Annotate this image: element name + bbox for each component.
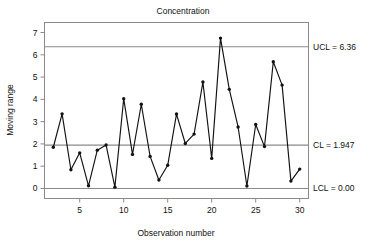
x-tick-label: 15 xyxy=(163,205,173,215)
data-point xyxy=(175,112,178,115)
data-point xyxy=(272,60,275,63)
y-tick-label: 0 xyxy=(33,183,38,193)
chart-canvas: Concentration Moving range 01234567 Obse… xyxy=(0,0,371,242)
y-axis-title: Moving range xyxy=(5,84,15,136)
x-tick-label: 10 xyxy=(119,205,129,215)
data-point xyxy=(104,143,107,146)
x-axis: Observation number 51015202530 xyxy=(77,199,304,239)
data-point xyxy=(219,36,222,39)
y-tick-group: 01234567 xyxy=(33,28,45,194)
y-tick-label: 7 xyxy=(33,28,38,38)
y-axis: Moving range 01234567 xyxy=(5,28,45,194)
control-chart: Concentration Moving range 01234567 Obse… xyxy=(0,0,371,242)
data-point xyxy=(263,145,266,148)
data-point xyxy=(245,184,248,187)
ucl-label: UCL = 6.36 xyxy=(313,42,356,52)
limit-labels: UCL = 6.36 CL = 1.947 LCL = 0.00 xyxy=(313,42,356,194)
data-point xyxy=(201,80,204,83)
x-tick-label: 20 xyxy=(207,205,217,215)
x-axis-title: Observation number xyxy=(137,228,214,238)
data-point xyxy=(157,178,160,181)
moving-range-points xyxy=(52,36,302,188)
y-tick-label: 5 xyxy=(33,72,38,82)
chart-title: Concentration xyxy=(157,6,210,16)
data-point xyxy=(148,155,151,158)
x-tick-label: 25 xyxy=(251,205,261,215)
y-tick-label: 2 xyxy=(33,139,38,149)
data-point xyxy=(280,83,283,86)
y-tick-label: 1 xyxy=(33,161,38,171)
data-point xyxy=(60,112,63,115)
data-point xyxy=(78,151,81,154)
data-point xyxy=(192,132,195,135)
x-tick-group: 51015202530 xyxy=(77,199,304,215)
y-tick-label: 3 xyxy=(33,117,38,127)
y-tick-label: 4 xyxy=(33,94,38,104)
data-point xyxy=(298,167,301,170)
cl-label: CL = 1.947 xyxy=(313,140,355,150)
data-point xyxy=(289,179,292,182)
data-point xyxy=(113,185,116,188)
lcl-label: LCL = 0.00 xyxy=(313,183,355,193)
data-point xyxy=(140,103,143,106)
data-point xyxy=(69,168,72,171)
data-point xyxy=(122,97,125,100)
data-point xyxy=(166,164,169,167)
plot-frame xyxy=(45,23,309,199)
data-point xyxy=(236,125,239,128)
data-point xyxy=(228,88,231,91)
x-tick-label: 30 xyxy=(295,205,305,215)
data-point xyxy=(184,142,187,145)
data-point xyxy=(87,184,90,187)
y-tick-label: 6 xyxy=(33,50,38,60)
data-point xyxy=(96,148,99,151)
data-point xyxy=(131,153,134,156)
data-point xyxy=(210,157,213,160)
x-tick-label: 5 xyxy=(77,205,82,215)
data-point xyxy=(52,146,55,149)
data-point xyxy=(254,123,257,126)
